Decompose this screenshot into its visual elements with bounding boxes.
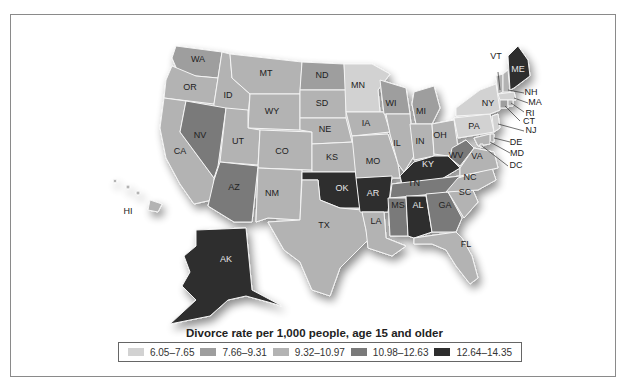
label-VT: VT [490,51,502,61]
label-SD: SD [316,98,329,108]
state-WI [380,80,410,114]
label-WV: WV [449,150,464,160]
state-HI [148,200,162,212]
label-CA: CA [174,146,187,156]
legend: 6.05–7.65 7.66–9.31 9.32–10.97 10.98–12.… [118,342,522,362]
label-IA: IA [362,118,371,128]
state-MA [498,92,516,100]
label-DE: DE [510,137,523,147]
legend-swatch [434,348,450,356]
legend-item: 9.32–10.97 [273,347,345,358]
label-LA: LA [370,216,381,226]
state-DE [490,134,494,142]
label-WY: WY [265,106,280,116]
label-NC: NC [464,172,477,182]
label-MT: MT [260,68,273,78]
label-AK: AK [220,254,232,264]
label-MA: MA [528,97,542,107]
legend-item: 6.05–7.65 [128,347,195,358]
legend-swatch [273,348,289,356]
label-ID: ID [224,90,234,100]
legend-label: 9.32–10.97 [295,347,345,358]
us-choropleth-map: WA OR CA ID NV MT WY UT CO AZ NM ND SD N… [0,0,629,382]
label-MO: MO [366,156,381,166]
label-NE: NE [319,124,332,134]
label-CO: CO [275,146,289,156]
label-OH: OH [433,130,447,140]
legend-label: 12.64–14.35 [456,347,512,358]
label-OK: OK [335,183,348,193]
state-HI-island [136,191,140,195]
legend-label: 10.98–12.63 [373,347,429,358]
label-WA: WA [191,54,205,64]
label-UT: UT [232,136,244,146]
state-NM [256,168,302,222]
label-MN: MN [351,80,365,90]
label-IL: IL [393,138,401,148]
legend-swatch [351,348,367,356]
label-MI: MI [416,106,426,116]
label-TX: TX [318,220,330,230]
label-OR: OR [183,82,197,92]
label-AZ: AZ [228,182,240,192]
label-MS: MS [391,200,405,210]
label-MD: MD [510,148,524,158]
label-FL: FL [461,239,472,249]
state-HI-island [113,179,117,183]
label-VA: VA [471,151,482,161]
label-SC: SC [459,187,472,197]
label-DC: DC [510,160,523,170]
label-AR: AR [367,188,380,198]
label-HI: HI [124,206,133,216]
state-HI-island [126,185,130,189]
label-KS: KS [326,152,338,162]
legend-item: 12.64–14.35 [434,347,512,358]
label-PA: PA [468,121,479,131]
label-IN: IN [416,136,425,146]
legend-label: 6.05–7.65 [150,347,195,358]
label-ND: ND [316,70,329,80]
label-NH: NH [525,87,538,97]
state-CT [500,100,508,108]
state-NJ [492,114,500,132]
label-NM: NM [265,188,279,198]
legend-title: Divorce rate per 1,000 people, age 15 an… [0,327,629,339]
legend-label: 7.66–9.31 [222,347,267,358]
label-NJ: NJ [526,125,537,135]
legend-item: 10.98–12.63 [351,347,429,358]
legend-swatch [128,348,144,356]
label-NY: NY [482,98,495,108]
state-MI [412,86,440,124]
state-RI [508,100,513,106]
state-AK [170,228,282,324]
label-AL: AL [412,200,423,210]
label-GA: GA [438,200,451,210]
legend-swatch [200,348,216,356]
label-WI: WI [386,98,397,108]
label-ME: ME [511,64,525,74]
label-NV: NV [194,130,207,140]
label-TN: TN [408,178,420,188]
legend-item: 7.66–9.31 [200,347,267,358]
label-KY: KY [422,159,434,169]
